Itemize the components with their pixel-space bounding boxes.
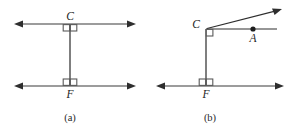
geometry-diagram: C F (a) C A — [0, 0, 292, 132]
panel-b-slanted-ray-arrowhead — [272, 9, 282, 15]
panel-a-label-c: C — [66, 10, 74, 22]
panel-b: C A F (b) — [156, 9, 284, 124]
panel-a-label-f: F — [65, 88, 74, 100]
panel-b-bottom-line-left-arrowhead — [156, 83, 165, 90]
panel-b-caption: (b) — [204, 112, 217, 124]
panel-a-right-angle-mark-c-left — [63, 25, 69, 31]
panel-b-label-a: A — [248, 32, 257, 44]
panel-b-right-angle-mark-c — [206, 29, 213, 36]
panel-b-point-a-dot — [250, 26, 255, 31]
panel-a-top-line-left-arrowhead — [14, 21, 23, 28]
panel-b-label-f: F — [201, 88, 210, 100]
panel-a-right-angle-mark-f-right — [70, 79, 76, 85]
panel-b-right-angle-mark-f-left — [199, 79, 205, 85]
panel-a: C F (a) — [14, 10, 136, 124]
panel-b-label-c: C — [192, 18, 200, 30]
geometry-figure-container: C F (a) C A — [0, 0, 292, 132]
panel-b-right-angle-mark-f-right — [206, 79, 212, 85]
panel-a-caption: (a) — [64, 112, 76, 124]
panel-a-bottom-line-right-arrowhead — [127, 83, 136, 90]
panel-b-bottom-line-right-arrowhead — [275, 83, 284, 90]
panel-b-slanted-ray — [207, 11, 275, 28]
panel-a-right-angle-mark-c-right — [70, 25, 76, 31]
panel-a-bottom-line-left-arrowhead — [14, 83, 23, 90]
panel-a-right-angle-mark-f-left — [63, 79, 69, 85]
panel-a-top-line-right-arrowhead — [127, 21, 136, 28]
